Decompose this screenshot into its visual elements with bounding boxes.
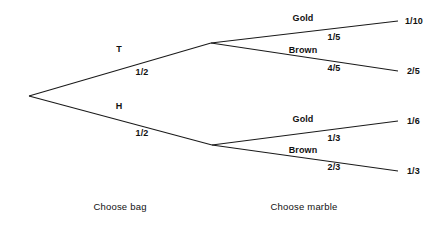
branch-label-T: T: [116, 44, 122, 54]
branch-label-H: H: [116, 101, 123, 111]
stage-caption-choose-marble: Choose marble: [270, 202, 337, 212]
outcome-value-h-brown: 1/3: [407, 166, 420, 176]
branch-probability-H-brown: 2/3: [328, 162, 341, 172]
branch-probability-T: 1/2: [136, 67, 149, 77]
outcome-value-t-brown: 2/5: [407, 66, 420, 76]
branch-probability-H: 1/2: [136, 128, 149, 138]
probability-tree-diagram: T 1/2 H 1/2 Gold 1/5 Brown 4/5 Gold 1/3 …: [0, 0, 447, 233]
stage-caption-choose-bag: Choose bag: [93, 202, 146, 212]
branch-probability-H-gold: 1/3: [328, 133, 341, 143]
branch-line-T-to-gold: [211, 21, 398, 43]
branch-label-T-brown: Brown: [289, 45, 318, 55]
outcome-value-t-gold: 1/10: [405, 16, 423, 26]
branch-label-H-gold: Gold: [293, 114, 314, 124]
branch-probability-T-gold: 1/5: [328, 32, 341, 42]
branch-line-H-to-gold: [212, 121, 398, 145]
branch-label-H-brown: Brown: [289, 145, 318, 155]
tree-branch-lines: [0, 0, 447, 233]
branch-probability-T-brown: 4/5: [328, 63, 341, 73]
outcome-value-h-gold: 1/6: [407, 116, 420, 126]
branch-label-T-gold: Gold: [293, 13, 314, 23]
